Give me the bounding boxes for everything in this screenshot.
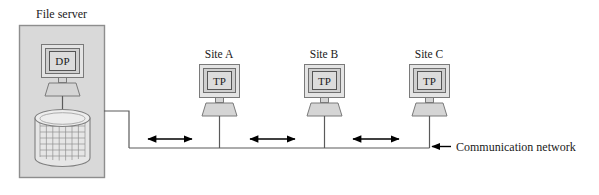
site-b-terminal-label: TP: [318, 75, 331, 87]
site-a-group: Site A TP: [200, 48, 240, 148]
server-monitor-base: [45, 83, 80, 96]
site-b-label: Site B: [310, 48, 339, 60]
database-cylinder: [35, 110, 90, 167]
network-diagram: DP: [0, 0, 599, 195]
site-c-monitor-neck: [426, 98, 434, 103]
site-a-monitor-neck: [216, 98, 224, 103]
server-monitor-neck: [59, 78, 67, 83]
file-server-group: DP: [20, 26, 105, 178]
diagram-canvas: DP: [0, 0, 599, 195]
site-c-label: Site C: [415, 48, 444, 60]
communication-bus: [104, 111, 430, 148]
site-c-group: Site C TP: [410, 48, 450, 148]
site-b-monitor-neck: [321, 98, 329, 103]
server-bus-connector: [104, 111, 129, 148]
server-processor-label: DP: [55, 55, 69, 67]
site-a-terminal-label: TP: [213, 75, 226, 87]
site-c-terminal-label: TP: [423, 75, 436, 87]
site-b-monitor-base: [307, 103, 342, 116]
file-server-label: File server: [36, 7, 87, 21]
site-b-group: Site B TP: [305, 48, 345, 148]
site-a-monitor-base: [202, 103, 237, 116]
communication-network-label: Communication network: [456, 140, 576, 154]
site-c-monitor-base: [412, 103, 447, 116]
site-a-label: Site A: [205, 48, 234, 60]
